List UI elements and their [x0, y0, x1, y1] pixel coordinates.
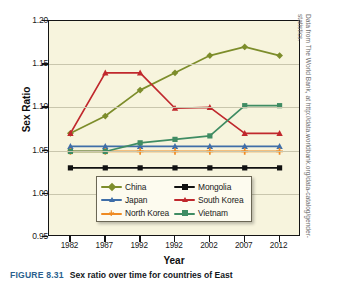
y-axis-tick-mark: [42, 150, 48, 151]
gridline: [49, 151, 299, 152]
data-point: [68, 165, 73, 170]
data-point: [172, 69, 179, 76]
legend-item-mongolia[interactable]: Mongolia: [174, 182, 247, 192]
legend-item-south-korea[interactable]: South Korea: [174, 195, 247, 205]
legend-swatch-icon: [101, 182, 122, 191]
data-point: [207, 133, 212, 138]
figure-number: FIGURE 8.31: [10, 270, 64, 280]
data-point: [172, 137, 177, 142]
y-axis-tick-mark: [42, 236, 48, 237]
legend-label: Mongolia: [198, 182, 231, 192]
series-line: [70, 73, 279, 133]
legend-swatch-icon: [101, 209, 122, 218]
data-point: [138, 140, 143, 145]
source-credit: Data from The World Bank, at http://data…: [278, 14, 312, 242]
data-point: [138, 165, 143, 170]
legend-item-north-korea[interactable]: North Korea: [101, 208, 174, 218]
series-china: [67, 44, 283, 137]
legend-item-japan[interactable]: Japan: [101, 195, 174, 205]
series-south-korea: [67, 70, 283, 136]
series-japan: [67, 143, 283, 149]
data-point: [207, 165, 212, 170]
y-axis-tick-mark: [42, 193, 48, 194]
data-point: [103, 165, 108, 170]
legend-label: China: [125, 182, 146, 192]
y-axis-label: Sex Ratio: [21, 50, 32, 170]
x-axis-label: Year: [48, 255, 300, 266]
legend-swatch-icon: [174, 182, 195, 191]
y-axis-tick-mark: [42, 20, 48, 21]
legend-swatch-icon: [174, 209, 195, 218]
y-axis-tick-mark: [42, 63, 48, 64]
data-point: [206, 52, 213, 59]
legend-label: South Korea: [198, 195, 243, 205]
figure-caption: FIGURE 8.31Sex ratio over time for count…: [10, 270, 310, 280]
y-axis-tick-mark: [42, 106, 48, 107]
legend-label: North Korea: [125, 208, 169, 218]
series-mongolia: [68, 165, 282, 170]
gridline: [49, 107, 299, 108]
data-point: [242, 165, 247, 170]
legend-label: Vietnam: [198, 208, 228, 218]
gridline: [49, 64, 299, 65]
data-point: [241, 44, 248, 51]
figure-caption-text: Sex ratio over time for countries of Eas…: [70, 270, 233, 280]
legend-label: Japan: [125, 195, 147, 205]
chart-legend: ChinaMongoliaJapanSouth KoreaNorth Korea…: [96, 176, 252, 222]
series-line: [70, 47, 279, 133]
legend-swatch-icon: [174, 195, 195, 204]
data-point: [172, 165, 177, 170]
legend-item-vietnam[interactable]: Vietnam: [174, 208, 247, 218]
legend-item-china[interactable]: China: [101, 182, 174, 192]
x-axis-tick-label: 2012: [259, 241, 299, 250]
figure-container: 0.951.001.051.101.151.20 198219871992199…: [0, 0, 351, 286]
legend-swatch-icon: [101, 195, 122, 204]
